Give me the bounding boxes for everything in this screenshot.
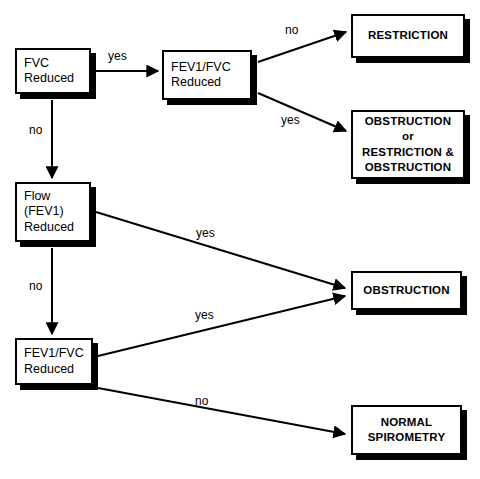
- edge-label-fvc-no: no: [29, 123, 42, 137]
- node-flow-fev1-reduced-label: Flow (FEV1) Reduced: [24, 189, 74, 235]
- edge-label-fev1fvc-bottom-yes: yes: [195, 308, 214, 322]
- edge-fev1fvc-bottom-no: [98, 388, 345, 434]
- edge-label-fev1fvc-top-yes: yes: [281, 113, 300, 127]
- edge-fev1fvc-bottom-yes: [98, 296, 345, 356]
- node-obstruction-or-restriction-label: OBSTRUCTION or RESTRICTION & OBSTRUCTION: [362, 114, 454, 175]
- node-fvc-reduced: FVC Reduced: [15, 48, 91, 94]
- node-flow-fev1-reduced: Flow (FEV1) Reduced: [15, 182, 91, 242]
- node-fev1-fvc-reduced-top: FEV1/FVC Reduced: [162, 50, 252, 100]
- node-fev1-fvc-reduced-bottom-label: FEV1/FVC Reduced: [24, 346, 84, 377]
- node-obstruction: OBSTRUCTION: [351, 271, 462, 310]
- node-normal-spirometry-label: NORMAL SPIROMETRY: [368, 415, 446, 445]
- edge-label-flow-no: no: [29, 279, 42, 293]
- edge-label-fvc-yes: yes: [108, 49, 127, 63]
- node-fev1-fvc-reduced-bottom: FEV1/FVC Reduced: [15, 338, 93, 385]
- node-restriction: RESTRICTION: [351, 14, 465, 58]
- node-restriction-label: RESTRICTION: [368, 28, 448, 43]
- edge-fev1fvc-top-no: [258, 32, 346, 62]
- node-normal-spirometry: NORMAL SPIROMETRY: [351, 405, 462, 455]
- node-fev1-fvc-reduced-top-label: FEV1/FVC Reduced: [171, 60, 231, 91]
- edge-flow-yes: [96, 212, 345, 288]
- edge-label-flow-yes: yes: [196, 226, 215, 240]
- node-obstruction-or-restriction: OBSTRUCTION or RESTRICTION & OBSTRUCTION: [351, 110, 465, 179]
- node-fvc-reduced-label: FVC Reduced: [24, 56, 74, 87]
- node-obstruction-label: OBSTRUCTION: [363, 283, 450, 298]
- edge-fev1fvc-top-yes: [258, 93, 346, 131]
- edge-label-fev1fvc-top-no: no: [285, 23, 298, 37]
- flowchart-canvas: FVC Reduced FEV1/FVC Reduced RESTRICTION…: [0, 0, 480, 479]
- edge-label-fev1fvc-bottom-no: no: [195, 394, 208, 408]
